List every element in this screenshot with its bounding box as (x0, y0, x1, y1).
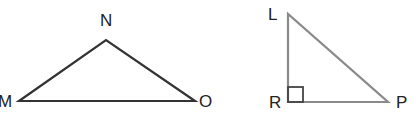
geometry-diagram: M N O L R P (0, 0, 416, 124)
vertex-label-r: R (269, 93, 281, 112)
vertex-label-o: O (199, 92, 212, 111)
triangle-lrp: L R P (268, 5, 407, 112)
triangle-mno-outline (19, 40, 195, 101)
vertex-label-n: N (100, 11, 112, 30)
right-angle-marker (288, 87, 303, 102)
vertex-label-l: L (268, 5, 277, 24)
triangle-mno: M N O (0, 11, 212, 111)
vertex-label-p: P (396, 93, 407, 112)
vertex-label-m: M (0, 92, 12, 111)
